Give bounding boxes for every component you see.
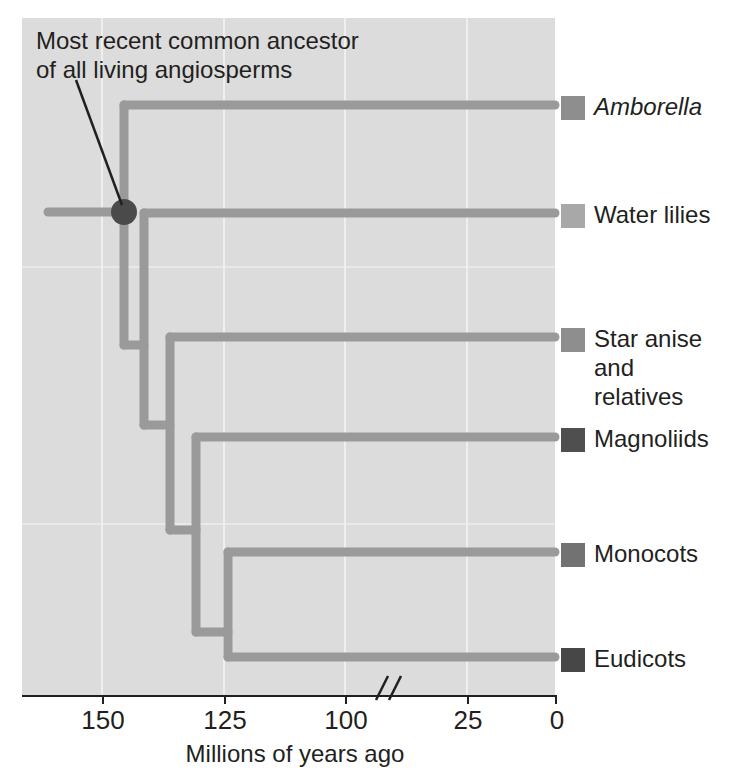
legend-label-water-lilies: Water lilies	[594, 201, 710, 230]
tick-label-125: 125	[203, 705, 246, 736]
tick-mark-150	[102, 695, 104, 704]
legend-item-star-anise: Star anise and relatives	[561, 325, 729, 411]
swatch-eudicots	[561, 648, 585, 672]
tick-mark-0	[555, 695, 557, 704]
tick-mark-125	[224, 695, 226, 704]
tick-mark-25	[467, 695, 469, 704]
swatch-magnoliids	[561, 428, 585, 452]
legend-label-monocots: Monocots	[594, 540, 698, 569]
phylogenetic-tree-figure: Most recent common ancestor of all livin…	[0, 0, 729, 775]
legend-label-eudicots: Eudicots	[594, 645, 686, 674]
legend-item-water-lilies: Water lilies	[561, 201, 710, 230]
tick-label-150: 150	[81, 705, 124, 736]
tick-label-100: 100	[324, 705, 367, 736]
axis-break-icon	[372, 674, 412, 704]
swatch-amborella	[561, 96, 585, 120]
legend-item-amborella: Amborella	[561, 93, 702, 122]
tick-label-25: 25	[454, 705, 483, 736]
tick-label-0: 0	[550, 705, 564, 736]
mrca-annotation: Most recent common ancestor of all livin…	[36, 26, 359, 85]
swatch-monocots	[561, 543, 585, 567]
annotation-leader-line	[76, 80, 122, 205]
legend-item-eudicots: Eudicots	[561, 645, 686, 674]
legend-label-star-anise: Star anise and relatives	[594, 325, 729, 411]
x-axis-title: Millions of years ago	[0, 740, 590, 768]
tick-mark-100	[345, 695, 347, 704]
legend-label-amborella: Amborella	[594, 93, 702, 122]
legend-label-magnoliids: Magnoliids	[594, 425, 709, 454]
legend-item-magnoliids: Magnoliids	[561, 425, 709, 454]
mrca-node-marker	[111, 199, 137, 225]
swatch-water-lilies	[561, 204, 585, 228]
swatch-star-anise	[561, 328, 585, 352]
legend-item-monocots: Monocots	[561, 540, 698, 569]
